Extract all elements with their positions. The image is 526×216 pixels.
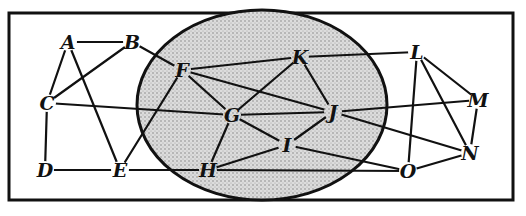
node-b: B <box>123 31 141 53</box>
node-label: C <box>39 92 54 114</box>
node-m: M <box>466 89 489 111</box>
edge-l-n <box>417 52 470 153</box>
node-label: F <box>174 59 190 81</box>
edge-h-o <box>208 170 408 171</box>
node-label: H <box>198 159 218 181</box>
node-label: M <box>466 89 489 111</box>
node-label: O <box>400 160 417 182</box>
node-k: K <box>291 46 310 68</box>
node-g: G <box>223 104 241 126</box>
node-label: I <box>282 134 293 156</box>
node-e: E <box>111 159 129 181</box>
node-l: L <box>408 41 426 63</box>
node-a: A <box>59 31 77 53</box>
node-label: J <box>326 101 340 123</box>
graph-diagram: ABCDEFGHIJKLMNO <box>0 0 526 216</box>
node-o: O <box>399 160 417 182</box>
node-label: N <box>460 142 479 164</box>
node-label: D <box>36 159 54 181</box>
node-n: N <box>460 142 479 164</box>
node-label: E <box>112 159 128 181</box>
node-f: F <box>173 59 191 81</box>
node-d: D <box>36 159 54 181</box>
node-h: H <box>198 159 218 181</box>
node-label: K <box>291 46 310 68</box>
node-label: A <box>59 31 76 53</box>
node-c: C <box>38 92 56 114</box>
node-label: G <box>224 104 240 126</box>
node-label: L <box>409 41 423 63</box>
node-label: B <box>123 31 140 53</box>
edge-l-o <box>408 52 417 171</box>
